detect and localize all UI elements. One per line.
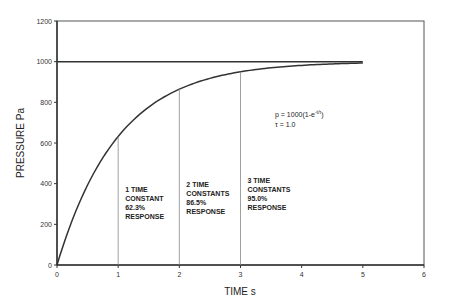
y-tick-label: 600 [40, 140, 52, 147]
y-tick-label: 1000 [36, 58, 52, 65]
time-constant-annotation: CONSTANTS [248, 186, 291, 193]
time-constant-annotation: RESPONSE [125, 213, 164, 220]
y-tick-label: 800 [40, 99, 52, 106]
x-tick-label: 5 [361, 271, 365, 278]
time-constant-annotation: CONSTANT [125, 195, 164, 202]
time-constant-annotation: 86.5% [186, 199, 207, 206]
x-tick-label: 0 [55, 271, 59, 278]
y-tick-label: 1200 [36, 18, 52, 25]
x-tick-label: 3 [239, 271, 243, 278]
x-tick-label: 2 [177, 271, 181, 278]
x-tick-label: 4 [300, 271, 304, 278]
y-axis-label: PRESSURE Pa [15, 108, 26, 178]
time-constant-annotation: 2 TIME [186, 181, 209, 188]
tau-text: τ = 1.0 [275, 121, 296, 128]
plot-area: 0200400600800100012000123456TIME sPRESSU… [15, 18, 426, 298]
x-tick-label: 1 [116, 271, 120, 278]
formula-text: p = 1000(1-e-t/τ) [275, 109, 324, 119]
time-constant-annotation: 62.3% [125, 204, 146, 211]
x-axis-label: TIME s [224, 286, 256, 297]
y-tick-label: 200 [40, 221, 52, 228]
time-constant-annotation: CONSTANTS [186, 190, 229, 197]
time-constant-annotation: 3 TIME [248, 177, 271, 184]
y-tick-label: 400 [40, 180, 52, 187]
chart: 0200400600800100012000123456TIME sPRESSU… [0, 0, 449, 307]
time-constant-annotation: 1 TIME [125, 186, 148, 193]
time-constant-annotation: RESPONSE [186, 208, 225, 215]
time-constant-annotation: RESPONSE [248, 204, 287, 211]
response-curve [57, 63, 363, 265]
time-constant-annotation: 95.0% [248, 195, 269, 202]
x-tick-label: 6 [422, 271, 426, 278]
y-tick-label: 0 [48, 262, 52, 269]
